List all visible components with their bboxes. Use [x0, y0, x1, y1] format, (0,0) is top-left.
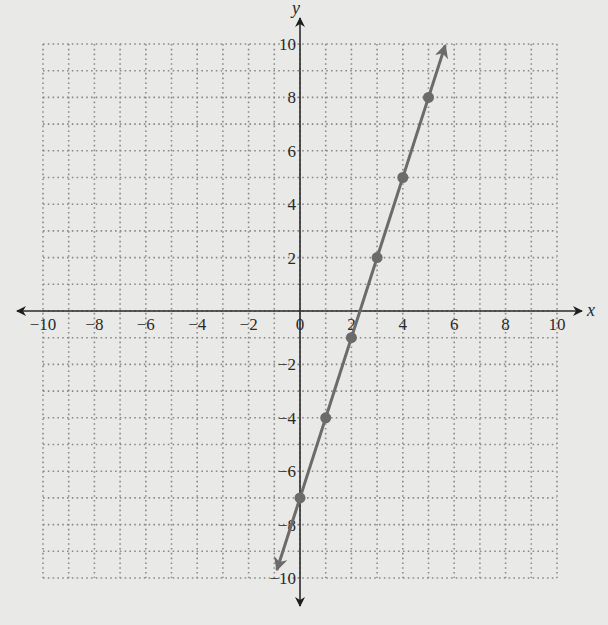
- x-tick-label: −10: [30, 315, 57, 334]
- y-tick-label: −10: [269, 569, 296, 588]
- y-axis-label: y: [290, 0, 300, 18]
- x-tick-label: −2: [240, 315, 258, 334]
- y-tick-label: 8: [288, 88, 297, 107]
- x-tick-label: 6: [450, 315, 459, 334]
- x-tick-label: 8: [501, 315, 510, 334]
- x-tick-label: 4: [399, 315, 408, 334]
- data-point: [320, 412, 331, 423]
- data-point: [372, 252, 383, 263]
- y-tick-label: −4: [278, 409, 297, 428]
- coordinate-plane: −10−8−6−4−20246810−10−8−6−4−2246810 x y: [0, 0, 608, 625]
- x-tick-label: 10: [549, 315, 566, 334]
- data-point: [397, 172, 408, 183]
- data-point: [295, 492, 306, 503]
- data-point: [346, 332, 357, 343]
- x-tick-label: −4: [188, 315, 207, 334]
- axes: [17, 18, 582, 606]
- data-point: [423, 92, 434, 103]
- x-axis-label: x: [586, 300, 595, 320]
- y-tick-label: 4: [288, 195, 297, 214]
- x-tick-label: −6: [137, 315, 155, 334]
- y-tick-label: 10: [279, 35, 296, 54]
- x-tick-label: −8: [85, 315, 103, 334]
- y-tick-label: 6: [288, 142, 297, 161]
- x-tick-label: 0: [296, 315, 305, 334]
- y-tick-label: 2: [288, 249, 297, 268]
- y-tick-label: −6: [278, 462, 296, 481]
- y-tick-label: −2: [278, 355, 296, 374]
